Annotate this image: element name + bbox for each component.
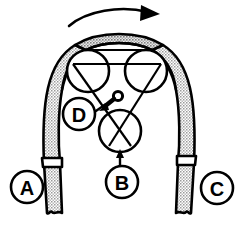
right-leg-collar (177, 156, 196, 165)
callout-d[interactable]: D (63, 98, 95, 130)
callout-a-label: A (20, 177, 34, 199)
callout-d-label: D (72, 104, 86, 126)
callout-c[interactable]: C (201, 172, 233, 204)
tensioner-pin (99, 91, 123, 111)
left-leg-collar (42, 158, 62, 167)
diagram-canvas: A B C D (0, 0, 239, 229)
callout-b-label: B (115, 172, 129, 194)
mechanical-diagram-figure: A B C D (0, 0, 239, 229)
callout-c-label: C (210, 178, 224, 200)
rotation-direction-arrow (69, 5, 160, 26)
callout-a[interactable]: A (11, 171, 43, 203)
callout-b[interactable]: B (106, 166, 138, 198)
